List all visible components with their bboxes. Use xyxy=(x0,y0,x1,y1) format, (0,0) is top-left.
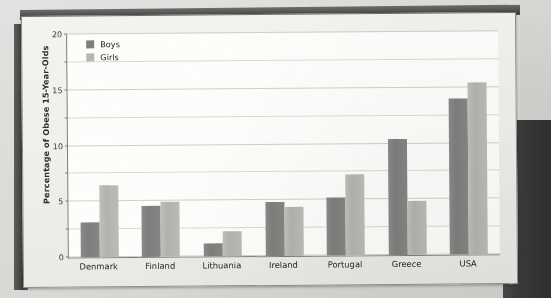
bar-girls-greece xyxy=(407,201,426,255)
bar-girls-finland xyxy=(161,202,180,257)
legend-label-boys: Boys xyxy=(100,39,120,49)
chart-sheet: Percentage of Obese 15-Year-Olds 0510152… xyxy=(21,12,518,288)
x-axis-label-finland: Finland xyxy=(129,261,191,279)
bar-girls-denmark xyxy=(99,185,119,258)
bar-group xyxy=(437,31,500,254)
bar-boys-portugal xyxy=(326,197,345,255)
y-axis-title: Percentage of Obese 15-Year-Olds xyxy=(40,25,52,225)
plot-area: 05101520 xyxy=(66,31,500,258)
bar-group xyxy=(252,33,315,256)
bar-group xyxy=(375,32,438,255)
bar-chart: Percentage of Obese 15-Year-Olds 0510152… xyxy=(21,12,518,288)
y-axis-tick-label: 15 xyxy=(52,86,62,95)
bar-girls-ireland xyxy=(284,207,303,256)
x-axis-label-portugal: Portugal xyxy=(314,259,376,277)
x-axis-label-lithuania: Lithuania xyxy=(191,260,253,278)
bar-girls-usa xyxy=(468,83,488,255)
legend-label-girls: Girls xyxy=(100,52,119,62)
bar-boys-denmark xyxy=(80,223,99,258)
x-axis-label-greece: Greece xyxy=(376,259,438,277)
bar-group xyxy=(67,34,130,257)
legend-item-girls: Girls xyxy=(86,52,120,62)
bar-group xyxy=(129,34,192,257)
bar-boys-usa xyxy=(449,98,469,254)
legend-swatch-icon-girls xyxy=(86,53,94,61)
bar-group xyxy=(190,33,253,256)
bar-boys-greece xyxy=(388,139,408,255)
bar-group xyxy=(313,32,376,255)
bar-girls-portugal xyxy=(345,174,365,256)
x-axis-category-labels: DenmarkFinlandLithuaniaIrelandPortugalGr… xyxy=(68,258,499,279)
legend-swatch-icon-boys xyxy=(86,40,94,48)
x-axis-label-usa: USA xyxy=(437,258,499,276)
chart-legend: Boys Girls xyxy=(86,39,120,62)
y-axis-tick-label: 20 xyxy=(52,30,62,39)
bar-boys-lithuania xyxy=(204,243,223,257)
y-axis-tick-label: 0 xyxy=(59,253,64,262)
bar-boys-ireland xyxy=(265,202,284,256)
bar-groups xyxy=(67,31,500,257)
legend-item-boys: Boys xyxy=(86,39,120,49)
bar-girls-lithuania xyxy=(223,232,242,257)
y-axis-tick-label: 10 xyxy=(53,142,63,151)
bar-boys-finland xyxy=(142,206,161,257)
y-axis-tick-label: 5 xyxy=(58,197,63,206)
screenshot-root: Percentage of Obese 15-Year-Olds 0510152… xyxy=(0,0,551,298)
page-edge-right-upper xyxy=(520,0,551,130)
x-axis-label-denmark: Denmark xyxy=(68,261,130,279)
x-axis-label-ireland: Ireland xyxy=(253,260,315,278)
